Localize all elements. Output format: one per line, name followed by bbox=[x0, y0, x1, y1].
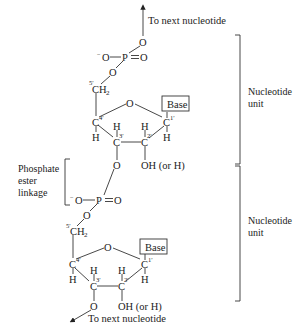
atom-c1-2: C bbox=[141, 259, 148, 270]
svg-text:2: 2 bbox=[106, 89, 110, 97]
charge-minus-2: − bbox=[70, 194, 74, 201]
top-arrow-label: To next nucleotide bbox=[148, 15, 226, 26]
svg-text:H: H bbox=[118, 265, 126, 276]
svg-text:H: H bbox=[90, 265, 98, 276]
atom-o-double-2: O bbox=[114, 195, 122, 206]
svg-text:2′: 2′ bbox=[124, 276, 129, 283]
nucleotide-unit-2-bracket bbox=[235, 166, 240, 301]
polynucleotide-diagram: To next nucleotide O P O − O O 5′ CH 2 O… bbox=[0, 0, 307, 329]
atom-c1-1: C bbox=[163, 117, 170, 128]
svg-text:H: H bbox=[163, 132, 171, 143]
atom-p-1: P bbox=[122, 52, 128, 63]
atom-o3-2: O bbox=[90, 301, 98, 312]
atom-o-ester-2: O bbox=[83, 210, 91, 221]
svg-text:3′: 3′ bbox=[96, 276, 101, 283]
phosphate-linkage-label: Phosphate bbox=[18, 163, 60, 174]
svg-text:H: H bbox=[113, 121, 121, 132]
base-label-2: Base bbox=[145, 242, 166, 253]
atom-c4-1: C bbox=[92, 117, 99, 128]
svg-text:1′: 1′ bbox=[170, 114, 175, 121]
nucleotide-unit-1-bracket bbox=[235, 35, 240, 164]
nucleotide-unit-1-label: Nucleotide bbox=[248, 86, 292, 97]
bottom-arrow-label: To next nucleotide bbox=[88, 313, 166, 324]
svg-text:4′: 4′ bbox=[99, 114, 104, 121]
charge-minus-1: − bbox=[97, 51, 101, 58]
svg-text:unit: unit bbox=[248, 98, 264, 109]
svg-text:unit: unit bbox=[248, 227, 264, 238]
svg-text:H: H bbox=[141, 121, 149, 132]
svg-text:3′: 3′ bbox=[119, 132, 124, 139]
svg-text:H: H bbox=[141, 274, 149, 285]
atom-p-2: P bbox=[96, 195, 102, 206]
svg-text:1′: 1′ bbox=[148, 256, 153, 263]
atom-o-neg-2: O bbox=[75, 195, 83, 206]
svg-text:ester: ester bbox=[18, 175, 38, 186]
svg-text:H: H bbox=[92, 132, 100, 143]
atom-c4-2: C bbox=[69, 259, 76, 270]
atom-ch2-1: CH bbox=[92, 84, 107, 95]
oh-or-h-1: OH (or H) bbox=[141, 160, 185, 172]
oh-or-h-2: OH (or H) bbox=[118, 301, 162, 313]
svg-text:2′: 2′ bbox=[147, 132, 152, 139]
atom-o-neg-1: O bbox=[102, 52, 110, 63]
ring-oxygen-1: O bbox=[126, 98, 134, 109]
nucleotide-unit-2-label: Nucleotide bbox=[248, 215, 292, 226]
atom-o-ester-1: O bbox=[109, 67, 117, 78]
svg-text:4′: 4′ bbox=[76, 256, 81, 263]
atom-o-top: O bbox=[139, 37, 147, 48]
atom-ch2-2: CH bbox=[70, 226, 85, 237]
svg-text:linkage: linkage bbox=[18, 187, 48, 198]
base-label-1: Base bbox=[167, 99, 188, 110]
atom-o3-1: O bbox=[113, 160, 121, 171]
ring-oxygen-2: O bbox=[104, 242, 112, 253]
svg-text:2: 2 bbox=[84, 231, 88, 239]
atom-o-double-1: O bbox=[140, 52, 148, 63]
svg-text:H: H bbox=[69, 274, 77, 285]
